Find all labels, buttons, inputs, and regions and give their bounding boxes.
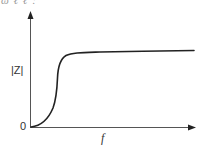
impedance-curve — [31, 51, 194, 128]
origin-label: 0 — [20, 121, 26, 132]
x-axis-label: f — [101, 133, 104, 144]
y-axis-arrow-icon — [28, 11, 34, 19]
y-axis-label: |Z| — [11, 65, 23, 76]
impedance-frequency-diagram: ω ℓ ℓ : |Z| 0 f — [0, 0, 207, 157]
x-axis-arrow-icon — [188, 125, 196, 131]
